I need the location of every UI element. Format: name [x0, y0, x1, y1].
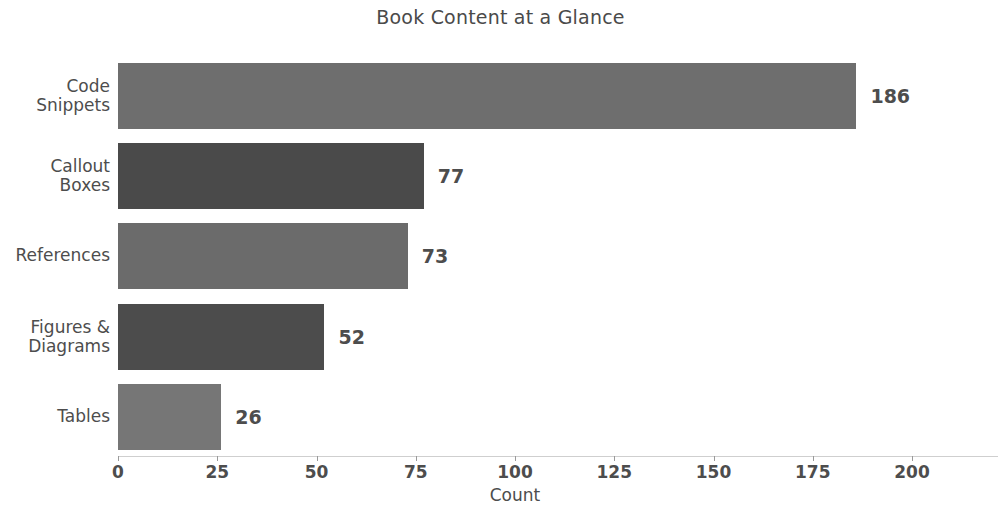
bar-row: Tables26 [118, 384, 912, 450]
bar [118, 63, 856, 129]
x-tick-mark [118, 456, 119, 461]
bar-value-label: 73 [422, 245, 448, 267]
bar-row: Figures & Diagrams52 [118, 304, 912, 370]
y-axis-category-label: Callout Boxes [4, 157, 110, 195]
x-tick-mark [714, 456, 715, 461]
x-tick-mark [515, 456, 516, 461]
bar-chart-figure: Book Content at a Glance Code Snippets18… [0, 0, 1001, 508]
bar [118, 223, 408, 289]
x-tick-label: 200 [882, 462, 942, 482]
y-axis-category-label: Figures & Diagrams [4, 318, 110, 356]
bar-value-label: 186 [870, 85, 910, 107]
x-tick-label: 125 [584, 462, 644, 482]
x-tick-mark [416, 456, 417, 461]
bar-value-label: 26 [235, 406, 261, 428]
chart-title: Book Content at a Glance [0, 6, 1001, 28]
x-axis-spine [118, 456, 998, 457]
bar-row: References73 [118, 223, 912, 289]
x-tick-mark [217, 456, 218, 461]
bar-row: Callout Boxes77 [118, 143, 912, 209]
x-tick-mark [912, 456, 913, 461]
bar-row: Code Snippets186 [118, 63, 912, 129]
bar [118, 143, 424, 209]
bar [118, 384, 221, 450]
x-tick-label: 25 [187, 462, 247, 482]
x-tick-mark [614, 456, 615, 461]
x-tick-label: 175 [783, 462, 843, 482]
x-tick-mark [813, 456, 814, 461]
x-tick-label: 150 [684, 462, 744, 482]
bar [118, 304, 324, 370]
x-tick-label: 50 [287, 462, 347, 482]
bar-value-label: 77 [438, 165, 464, 187]
y-axis-category-label: References [4, 247, 110, 266]
bar-value-label: 52 [338, 326, 364, 348]
x-tick-mark [317, 456, 318, 461]
x-tick-label: 75 [386, 462, 446, 482]
x-tick-label: 0 [88, 462, 148, 482]
x-tick-label: 100 [485, 462, 545, 482]
plot-area: Code Snippets186Callout Boxes77Reference… [118, 55, 912, 456]
x-axis-label: Count [118, 485, 912, 505]
y-axis-category-label: Code Snippets [4, 77, 110, 115]
y-axis-category-label: Tables [4, 407, 110, 426]
